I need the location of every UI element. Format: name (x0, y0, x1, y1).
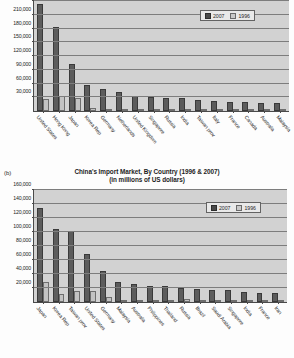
bar-2007 (37, 4, 43, 111)
x-axis-label: Australia (260, 114, 277, 132)
x-axis-label: Russia (164, 114, 178, 129)
y-axis-tick-mark (32, 28, 34, 29)
gridline (34, 96, 289, 97)
bar-group (176, 190, 192, 302)
y-axis-tick-mark (32, 55, 34, 56)
legend-entry-2007: 2007 (205, 13, 225, 19)
x-axis-label: France (228, 114, 242, 130)
y-axis-tick-label: 160,000 (13, 181, 31, 187)
bar-group (82, 1, 98, 111)
figure-b-sub-label: (b) (4, 170, 11, 176)
figure-b-title: China's Import Market, By Country (1996 … (0, 168, 294, 176)
legend-entry-2007: 2007 (211, 205, 231, 211)
bar-1996 (43, 99, 49, 111)
bar-group (146, 1, 162, 111)
x-axis-label: Thailand (163, 305, 180, 323)
chart-a-legend: 2007 1996 (200, 10, 255, 21)
x-axis-label: Japan (68, 114, 81, 128)
x-axis-label: Iran (274, 305, 284, 315)
x-axis-label: Russia (178, 305, 192, 320)
bar-group (162, 1, 178, 111)
chart-b-legend: 2007 1996 (206, 202, 261, 213)
legend-swatch-2007-icon (205, 13, 211, 19)
bar-group (256, 1, 272, 111)
x-axis-label: Malaysia (276, 114, 293, 133)
bar-2007 (115, 282, 121, 302)
y-axis-tick-mark (32, 217, 34, 218)
gridline (34, 83, 289, 84)
y-axis-tick-label: 120,000 (13, 47, 31, 53)
gridline (34, 28, 289, 29)
bar-1996 (74, 291, 80, 302)
y-axis-tick-mark (32, 14, 34, 15)
y-axis-tick-label: 60,000 (16, 251, 31, 257)
x-axis-label: Italy (212, 114, 222, 125)
y-axis-tick-label: 120,000 (13, 209, 31, 215)
y-axis-tick-mark (32, 69, 34, 70)
legend-swatch-1996-icon (230, 13, 236, 19)
bar-group (129, 190, 145, 302)
chart-b-plot: 20,00040,00060,00080,000100,000120,00014… (33, 190, 287, 303)
gridline (34, 0, 289, 1)
x-axis-label: Brazil (194, 305, 206, 318)
y-axis-tick-label: 40,000 (16, 265, 31, 271)
y-axis-tick-label: 20,000 (16, 279, 31, 285)
y-axis-tick-mark (32, 287, 34, 288)
bar-2007 (53, 229, 59, 302)
bar-group (130, 1, 146, 111)
gridline (34, 259, 287, 260)
x-axis-label: India (180, 114, 191, 126)
gridline (34, 55, 289, 56)
y-axis-tick-label: 180,000 (13, 20, 31, 26)
bar-group (272, 1, 288, 111)
chart-a-plot: 30,00060,00090,000120,000150,000180,0002… (33, 1, 289, 112)
gridline (34, 231, 287, 232)
scanned-document-page: 30,00060,00090,000120,000150,000180,0002… (0, 0, 294, 358)
y-axis-tick-mark (32, 41, 34, 42)
bar-group (67, 1, 83, 111)
bar-group (270, 190, 286, 302)
y-axis-tick-label: 90,000 (16, 61, 31, 67)
legend-label-1996: 1996 (238, 13, 250, 19)
y-axis-tick-mark (32, 231, 34, 232)
gridline (34, 287, 287, 288)
bar-group (51, 190, 67, 302)
chart-a-x-axis-labels: United StatesHong KongJapanKorea RepGerm… (33, 112, 289, 164)
gridline (34, 189, 287, 190)
x-axis-label: Japan (36, 305, 49, 319)
bar-group (145, 190, 161, 302)
legend-label-2007: 2007 (213, 13, 225, 19)
bar-group (114, 1, 130, 111)
bar-group (161, 190, 177, 302)
y-axis-tick-mark (32, 259, 34, 260)
bar-group (82, 190, 98, 302)
y-axis-tick-mark (32, 83, 34, 84)
figure-b-import-chart: (b) China's Import Market, By Country (1… (0, 168, 294, 358)
legend-label-2007: 2007 (219, 205, 231, 211)
y-axis-tick-label: 210,000 (13, 6, 31, 12)
chart-b-x-axis-labels: JapanKorea RepTaiwan provUnited StatesGe… (33, 303, 287, 355)
gridline (34, 41, 289, 42)
bar-1996 (43, 282, 49, 302)
legend-entry-1996: 1996 (236, 205, 256, 211)
y-axis-tick-label: 150,000 (13, 33, 31, 39)
y-axis-tick-mark (32, 273, 34, 274)
bar-group (35, 190, 51, 302)
legend-label-1996: 1996 (244, 205, 256, 211)
figure-b-subtitle: (in millions of US dollars) (0, 176, 294, 184)
legend-swatch-1996-icon (236, 205, 242, 211)
figure-a-export-chart: 30,00060,00090,000120,000150,000180,0002… (0, 0, 294, 171)
bar-group (177, 1, 193, 111)
y-axis-tick-label: 140,000 (13, 195, 31, 201)
y-axis-tick-mark (32, 0, 34, 1)
bar-group (35, 1, 51, 111)
gridline (34, 273, 287, 274)
y-axis-tick-mark (32, 189, 34, 190)
legend-swatch-2007-icon (211, 205, 217, 211)
x-axis-label: Malaysia (115, 305, 132, 324)
legend-entry-1996: 1996 (230, 13, 250, 19)
y-axis-tick-label: 100,000 (13, 223, 31, 229)
bar-group (66, 190, 82, 302)
gridline (34, 217, 287, 218)
x-axis-label: India (242, 305, 253, 317)
